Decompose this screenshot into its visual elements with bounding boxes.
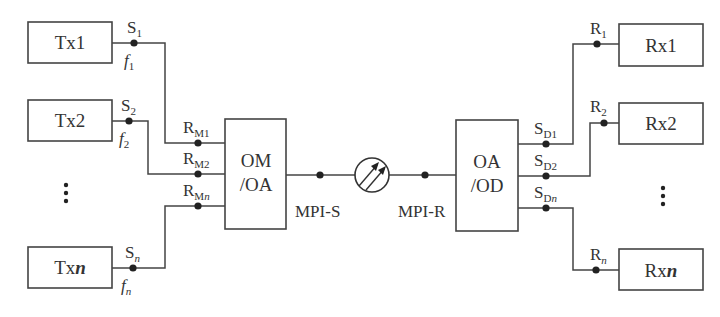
mpi-s-dot: [316, 171, 323, 178]
r1-dot: [593, 40, 600, 47]
rmn-dot: [194, 202, 201, 209]
rm2-label: RM2: [183, 149, 210, 170]
caption-cutoff: [0, 309, 720, 317]
ellipsis-dot-left: [64, 183, 68, 187]
tx1-label: Tx1: [55, 32, 86, 53]
rxn-label: Rxn: [645, 260, 678, 281]
r2-label: R2: [590, 97, 607, 118]
ellipsis-dot-right: [661, 194, 665, 198]
f2-label: f2: [119, 129, 129, 150]
sd1-label: SD1: [534, 119, 557, 140]
s2-dot: [125, 117, 132, 124]
ellipsis-dot-right: [661, 202, 665, 206]
rmn-label: RMn: [183, 181, 210, 202]
wdm-system-diagram: Tx1 Tx2 Txn S1 f1 S2 f2 Sn fn RM1 RM2 RM…: [0, 0, 720, 317]
rx2-label: Rx2: [645, 113, 677, 134]
rn-dot: [592, 266, 599, 273]
r2-dot: [600, 119, 607, 126]
ellipsis-dot-right: [661, 186, 665, 190]
mpi-s-label: MPI-S: [295, 202, 340, 221]
mpi-r-label: MPI-R: [398, 202, 446, 221]
sn-dot: [129, 264, 136, 271]
sdn-label: SDn: [534, 183, 557, 204]
sd2-label: SD2: [534, 151, 557, 172]
sn-label: Sn: [125, 243, 140, 264]
sdn-dot: [542, 204, 549, 211]
txn-label: Txn: [54, 257, 86, 278]
rx1-label: Rx1: [645, 35, 677, 56]
ellipsis-dot-left: [64, 191, 68, 195]
optical-amplifier-icon: [355, 158, 389, 192]
fn-label: fn: [121, 276, 132, 297]
rm2-dot: [194, 170, 201, 177]
s1-dot: [130, 39, 137, 46]
mpi-r-dot: [421, 171, 428, 178]
oa-od-line1: OA: [473, 151, 501, 172]
s2-label: S2: [121, 96, 136, 117]
tx2-label: Tx2: [55, 110, 86, 131]
rn-label: Rn: [590, 245, 607, 266]
sd1-dot: [542, 140, 549, 147]
rm1-label: RM1: [183, 118, 210, 139]
r1-label: R1: [590, 19, 607, 40]
om-oa-line2: /OA: [240, 174, 273, 195]
om-oa-line1: OM: [241, 150, 272, 171]
ellipsis-dot-left: [64, 199, 68, 203]
sd2-dot: [542, 172, 549, 179]
oa-od-line2: /OD: [471, 175, 504, 196]
rm1-dot: [194, 139, 201, 146]
f1-label: f1: [124, 51, 134, 72]
s1-label: S1: [127, 18, 142, 39]
